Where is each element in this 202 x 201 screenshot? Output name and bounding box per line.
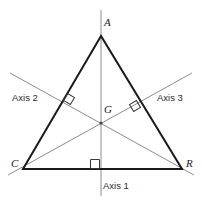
figure-canvas: A C R G Axis 1 Axis 2 Axis 3 <box>0 0 202 201</box>
geometry-diagram: A C R G Axis 1 Axis 2 Axis 3 <box>0 0 202 201</box>
vertex-label-a: A <box>103 16 111 28</box>
right-angle-mark <box>91 160 100 169</box>
vertex-label-c: C <box>11 157 19 169</box>
axis-3-label: Axis 3 <box>157 92 183 103</box>
centroid-label: G <box>104 103 112 115</box>
vertex-label-r: R <box>185 157 193 169</box>
centroid-point <box>99 121 102 124</box>
axis-1-label: Axis 1 <box>103 180 129 191</box>
axis-2-label: Axis 2 <box>12 92 38 103</box>
